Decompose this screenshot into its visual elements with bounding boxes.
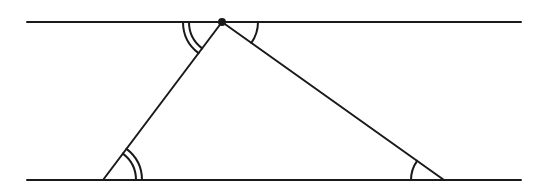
geometry-diagram (0, 0, 542, 189)
bottom-left-arc-outer (126, 149, 142, 180)
side-apex-right (222, 22, 444, 180)
apex-point (219, 19, 225, 25)
apex-left-arc-outer (183, 22, 199, 53)
side-apex-left (103, 22, 222, 180)
bottom-right-arc (411, 161, 417, 180)
apex-right-arc (251, 22, 258, 43)
